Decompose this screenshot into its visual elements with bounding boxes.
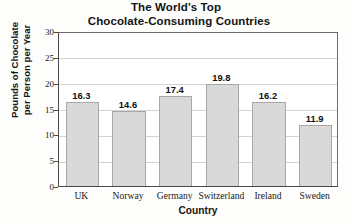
y-axis-title-line-1: Pounds of Chocolate bbox=[9, 0, 21, 145]
bar bbox=[252, 102, 285, 186]
bar-chart-figure: The World's Top Chocolate-Consuming Coun… bbox=[0, 0, 352, 224]
bar bbox=[206, 84, 239, 186]
bar bbox=[299, 125, 332, 186]
plot-inner bbox=[59, 33, 337, 186]
y-axis-tick-mark bbox=[54, 187, 58, 188]
bar bbox=[112, 111, 145, 186]
y-axis-tick-label: 25 bbox=[14, 53, 54, 63]
y-axis-title: Pounds of Chocolate per Person per Year bbox=[9, 0, 39, 145]
bar-value-label: 14.6 bbox=[105, 99, 150, 110]
y-axis-tick-label: 10 bbox=[14, 130, 54, 140]
x-axis-title: Country bbox=[58, 205, 338, 216]
bar-value-label: 17.4 bbox=[152, 84, 197, 95]
chart-title-line-2: Chocolate-Consuming Countries bbox=[6, 15, 352, 29]
gridline bbox=[59, 162, 337, 163]
y-axis-tick-label: 30 bbox=[14, 27, 54, 37]
y-axis-tick-label: 0 bbox=[14, 182, 54, 192]
gridline bbox=[59, 84, 337, 85]
bar bbox=[66, 102, 99, 186]
y-axis-tick-label: 15 bbox=[14, 105, 54, 115]
bar bbox=[159, 96, 192, 186]
gridline bbox=[59, 110, 337, 111]
bar-value-label: 16.2 bbox=[245, 90, 290, 101]
y-axis-tick-label: 20 bbox=[14, 79, 54, 89]
plot-area bbox=[58, 32, 338, 187]
chart-title: The World's Top Chocolate-Consuming Coun… bbox=[0, 1, 352, 28]
gridline bbox=[59, 58, 337, 59]
bar-value-label: 16.3 bbox=[59, 90, 104, 101]
chart-title-line-1: The World's Top bbox=[0, 1, 352, 15]
bar-value-label: 19.8 bbox=[199, 72, 244, 83]
y-axis-title-line-2: per Person per Year bbox=[21, 0, 33, 145]
x-axis-tick-label: Sweden bbox=[283, 190, 346, 201]
gridline bbox=[59, 136, 337, 137]
bar-value-label: 11.9 bbox=[292, 113, 337, 124]
y-axis-tick-label: 5 bbox=[14, 156, 54, 166]
